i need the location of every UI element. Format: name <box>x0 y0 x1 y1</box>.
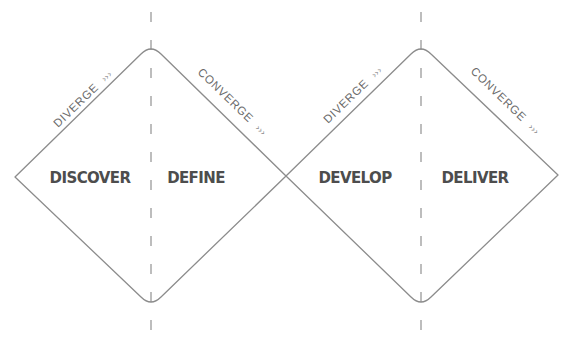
svg-text:DIVERGE ›››: DIVERGE ››› <box>321 64 384 126</box>
phase-label-deliver: DELIVER <box>441 169 509 187</box>
slope-text: DIVERGE <box>51 81 101 129</box>
chevrons-icon: ››› <box>253 123 268 138</box>
slope-text: CONVERGE <box>469 65 529 124</box>
slope-label-diverge-1: DIVERGE ››› <box>51 68 114 130</box>
slope-label-converge-1: CONVERGE ››› <box>196 66 270 138</box>
slope-text: CONVERGE <box>196 66 256 125</box>
phase-label-define: DEFINE <box>167 169 225 187</box>
svg-text:DIVERGE ›››: DIVERGE ››› <box>51 68 114 130</box>
chevrons-icon: ››› <box>369 65 384 80</box>
svg-text:CONVERGE ›››: CONVERGE ››› <box>196 66 270 138</box>
chevrons-icon: ››› <box>526 122 541 137</box>
phase-label-discover: DISCOVER <box>50 169 132 187</box>
slope-label-diverge-2: DIVERGE ››› <box>321 64 384 126</box>
phase-label-develop: DEVELOP <box>318 169 392 187</box>
double-diamond-diagram: DIVERGE ››› CONVERGE ››› DIVERGE ››› CON… <box>0 0 571 355</box>
